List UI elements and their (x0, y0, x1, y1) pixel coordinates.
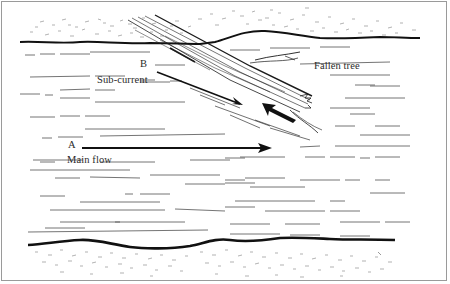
main-flow-arrow (82, 143, 272, 153)
label-main-flow: Main flow (67, 155, 112, 166)
label-point-a: A (68, 140, 76, 151)
sub-current-streaks (190, 88, 310, 140)
bottom-bank-line (28, 238, 395, 249)
label-point-b: B (140, 59, 147, 70)
water-streaks (20, 47, 410, 236)
label-sub-current: Sub-current (97, 75, 148, 86)
eddy-arrow (262, 103, 296, 123)
label-fallen-tree: Fallen tree (314, 61, 360, 72)
bottom-bank-stipple (35, 250, 392, 277)
fallen-tree (128, 15, 322, 133)
top-bank-stipple (30, 8, 416, 37)
sub-current-arrow (157, 72, 243, 105)
